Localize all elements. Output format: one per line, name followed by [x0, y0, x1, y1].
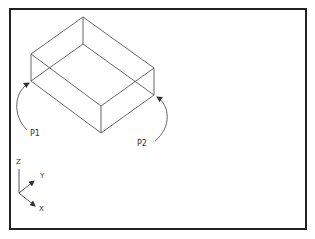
point-label-p1: P1	[30, 130, 40, 138]
axis-label-z: Z	[16, 159, 21, 166]
ucs-axes-icon	[19, 169, 35, 206]
drawing-frame	[10, 9, 306, 229]
axis-label-x: X	[39, 206, 44, 213]
point-label-p2: P2	[137, 140, 147, 148]
box-bottom-face	[31, 44, 154, 133]
drawing-canvas	[0, 0, 315, 239]
axis-label-y: Y	[40, 173, 44, 180]
p1-pointer-arrow	[17, 83, 29, 130]
wireframe-box	[31, 17, 154, 133]
p2-pointer-arrow	[155, 97, 167, 141]
box-top-face	[31, 17, 154, 106]
